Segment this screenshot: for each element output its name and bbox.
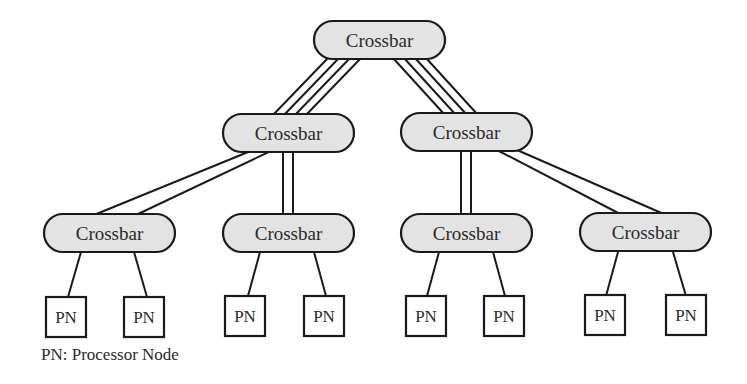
link-leaf-1-to-pn bbox=[68, 252, 147, 297]
processor-node-2-label: PN bbox=[133, 308, 155, 327]
crossbar-mid-right: Crossbar bbox=[401, 113, 532, 151]
processor-node-2: PN bbox=[124, 297, 164, 337]
link-root-to-mid-left bbox=[273, 58, 361, 115]
crossbar-root-label: Crossbar bbox=[346, 30, 414, 51]
crossbar-hierarchy-diagram: Crossbar Crossbar Crossbar Crossbar Cros… bbox=[0, 0, 747, 384]
processor-node-3: PN bbox=[225, 296, 265, 336]
link-root-to-mid-right bbox=[393, 58, 478, 115]
crossbar-root: Crossbar bbox=[314, 21, 445, 59]
processor-node-5-label: PN bbox=[415, 307, 437, 326]
processor-node-1: PN bbox=[46, 297, 86, 337]
processor-node-1-label: PN bbox=[55, 308, 77, 327]
processor-node-4-label: PN bbox=[313, 307, 335, 326]
crossbar-leaf-3: Crossbar bbox=[401, 214, 532, 252]
link-leaf-4-to-pn bbox=[606, 252, 686, 296]
crossbar-mid-right-label: Crossbar bbox=[433, 122, 501, 143]
processor-node-6: PN bbox=[484, 296, 524, 336]
processor-node-8-label: PN bbox=[675, 306, 697, 325]
link-mid-left-to-leaf-1 bbox=[94, 150, 273, 215]
processor-node-4: PN bbox=[304, 296, 344, 336]
processor-node-3-label: PN bbox=[234, 307, 256, 326]
processor-node-7-label: PN bbox=[594, 306, 616, 325]
link-mid-right-to-leaf-3 bbox=[461, 152, 471, 215]
processor-node-7: PN bbox=[585, 295, 625, 335]
crossbar-leaf-2-label: Crossbar bbox=[255, 223, 323, 244]
crossbar-leaf-2: Crossbar bbox=[223, 214, 354, 252]
processor-node-5: PN bbox=[406, 296, 446, 336]
link-leaf-3-to-pn bbox=[427, 252, 505, 296]
crossbar-leaf-1-label: Crossbar bbox=[76, 223, 144, 244]
link-mid-left-to-leaf-2 bbox=[283, 152, 293, 215]
crossbar-mid-left-label: Crossbar bbox=[255, 123, 323, 144]
crossbar-leaf-4: Crossbar bbox=[580, 213, 711, 251]
legend: PN: Processor Node bbox=[41, 345, 179, 365]
link-mid-right-to-leaf-4 bbox=[497, 150, 666, 215]
processor-node-6-label: PN bbox=[493, 307, 515, 326]
crossbar-leaf-4-label: Crossbar bbox=[612, 222, 680, 243]
crossbar-leaf-3-label: Crossbar bbox=[433, 223, 501, 244]
crossbar-mid-left: Crossbar bbox=[223, 114, 354, 152]
crossbar-leaf-1: Crossbar bbox=[44, 214, 175, 252]
link-leaf-2-to-pn bbox=[248, 252, 326, 296]
processor-node-8: PN bbox=[666, 295, 706, 335]
